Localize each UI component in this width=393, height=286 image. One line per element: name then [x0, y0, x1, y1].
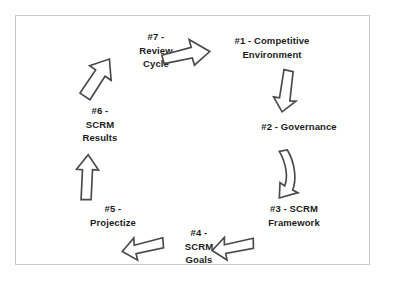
arrow-5-to-6-icon	[74, 152, 100, 202]
cycle-node-5: #5 - Projectize	[72, 202, 154, 229]
cycle-node-2: #2 - Governance	[244, 120, 354, 134]
arrow-7-to-1-icon	[160, 38, 212, 72]
cycle-node-3: #3 - SCRM Framework	[244, 202, 344, 229]
cycle-node-6: #6 - SCRM Results	[64, 104, 136, 145]
diagram-canvas: #1 - Competitive Environment #2 - Govern…	[0, 0, 393, 286]
diagram-border-frame: #1 - Competitive Environment #2 - Govern…	[15, 15, 370, 265]
arrow-1-to-2-icon	[272, 68, 298, 114]
arrow-2-to-3-icon	[272, 148, 300, 200]
arrow-4-to-5-icon	[120, 234, 166, 262]
cycle-node-1: #1 - Competitive Environment	[212, 34, 332, 61]
arrow-6-to-7-icon	[78, 54, 116, 102]
arrow-3-to-4-icon	[210, 234, 256, 262]
